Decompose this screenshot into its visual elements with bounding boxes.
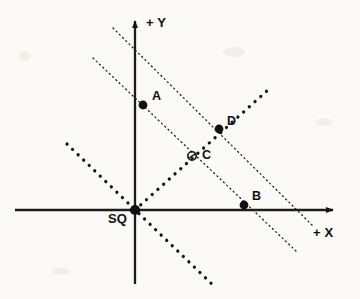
point-marker-origin-sq[interactable] — [130, 205, 140, 215]
fine-dotted-line-upper — [113, 28, 313, 226]
scan-speckle — [52, 268, 70, 275]
point-label-d: D — [227, 115, 236, 128]
point-label-a: A — [152, 90, 161, 103]
scan-speckle — [316, 118, 332, 126]
origin-label-sq: SQ — [108, 212, 127, 225]
scan-speckle — [223, 47, 245, 57]
point-marker-a[interactable] — [139, 101, 148, 110]
point-marker-d[interactable] — [215, 125, 224, 134]
point-label-b: B — [252, 190, 261, 203]
point-marker-b[interactable] — [240, 201, 249, 210]
point-label-c: C — [202, 149, 211, 162]
diagram-canvas: + Y + X SQ A B C D — [0, 0, 360, 299]
y-axis-label: + Y — [146, 16, 166, 29]
scan-speckle — [18, 52, 31, 61]
diagram-svg — [0, 0, 360, 299]
x-axis-label: + X — [313, 226, 333, 239]
thick-dotted-line-ac — [67, 144, 216, 288]
